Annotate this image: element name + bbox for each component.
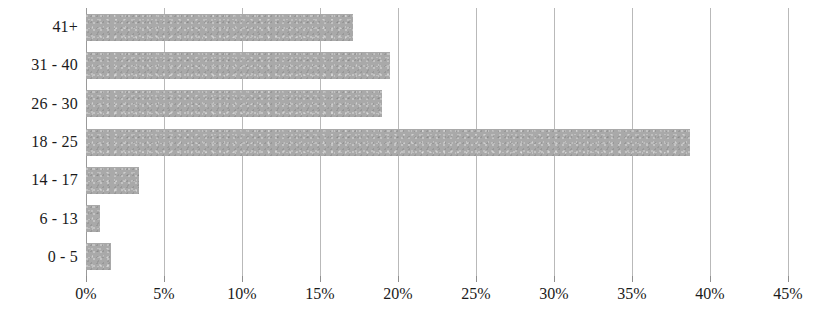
bar-chart: 41+31 - 4026 - 3018 - 2514 - 176 - 130 -…	[0, 0, 814, 310]
x-axis-label: 35%	[617, 286, 646, 302]
bar	[86, 167, 139, 194]
x-axis-label: 5%	[153, 286, 174, 302]
x-axis-tick-mark	[554, 276, 555, 282]
x-axis-tick-mark	[476, 276, 477, 282]
bar	[86, 243, 111, 270]
x-axis-tick-labels: 0%5%10%15%20%25%30%35%40%45%	[0, 286, 814, 308]
x-axis-tick-mark	[788, 276, 789, 282]
y-axis-label: 6 - 13	[0, 211, 78, 227]
y-axis-label: 14 - 17	[0, 172, 78, 188]
plot-area	[86, 8, 788, 276]
x-axis-tick-mark	[632, 276, 633, 282]
x-axis-tick-mark	[398, 276, 399, 282]
y-axis-category-labels: 41+31 - 4026 - 3018 - 2514 - 176 - 130 -…	[0, 0, 78, 278]
x-axis-tick-mark	[710, 276, 711, 282]
y-axis-label: 31 - 40	[0, 57, 78, 73]
gridline-45%	[788, 8, 789, 276]
bar	[86, 52, 390, 79]
x-axis-tick-mark	[164, 276, 165, 282]
bar	[86, 205, 100, 232]
x-axis-label: 30%	[539, 286, 568, 302]
x-axis-tick-mark	[86, 276, 87, 282]
x-axis-tick-mark	[242, 276, 243, 282]
bar	[86, 90, 382, 117]
x-axis-label: 10%	[227, 286, 256, 302]
x-axis-label: 0%	[75, 286, 96, 302]
x-axis-label: 20%	[383, 286, 412, 302]
x-axis-label: 15%	[305, 286, 334, 302]
x-axis-tick-mark	[320, 276, 321, 282]
bar	[86, 14, 353, 41]
y-axis-label: 26 - 30	[0, 96, 78, 112]
y-axis-label: 41+	[0, 19, 78, 35]
bars-layer	[86, 8, 788, 276]
y-axis-label: 18 - 25	[0, 134, 78, 150]
x-axis-label: 25%	[461, 286, 490, 302]
x-axis-tick-marks	[86, 276, 788, 282]
y-axis-label: 0 - 5	[0, 249, 78, 265]
bar	[86, 129, 690, 156]
x-axis-label: 40%	[695, 286, 724, 302]
x-axis-label: 45%	[773, 286, 802, 302]
